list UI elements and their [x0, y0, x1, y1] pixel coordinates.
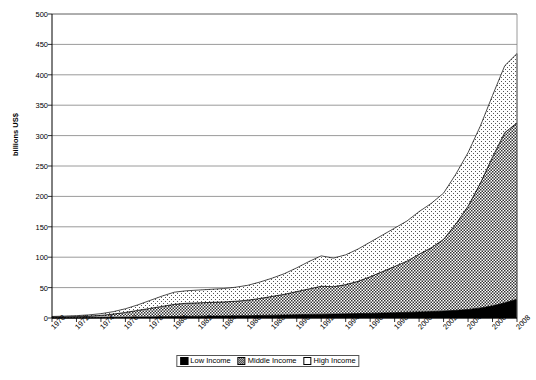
y-axis-tick-250: 250	[4, 162, 48, 171]
y-axis-tick-0: 0	[4, 314, 48, 323]
y-axis-tick-450: 450	[4, 40, 48, 49]
legend-item-low-income[interactable]: Low Income	[180, 357, 230, 365]
y-axis-tick-200: 200	[4, 192, 48, 201]
legend-label-low-income: Low Income	[190, 357, 230, 365]
y-axis-tick-50: 50	[4, 283, 48, 292]
y-axis-tick-labels: 050100150200250300350400450500	[0, 0, 48, 380]
legend-swatch-high-income	[304, 357, 312, 365]
legend-label-middle-income: Middle Income	[248, 357, 297, 365]
legend-swatch-low-income	[180, 357, 188, 365]
chart-container: billions US$ 050100150200250300350400450…	[0, 0, 536, 380]
legend-swatch-middle-income	[238, 357, 246, 365]
y-axis-tick-300: 300	[4, 131, 48, 140]
y-axis-tick-500: 500	[4, 10, 48, 19]
y-axis-tick-400: 400	[4, 70, 48, 79]
y-axis-tick-100: 100	[4, 253, 48, 262]
area-series-group	[52, 54, 517, 318]
y-axis-tick-150: 150	[4, 222, 48, 231]
legend-label-high-income: High Income	[314, 357, 356, 365]
legend-item-high-income[interactable]: High Income	[304, 357, 356, 365]
legend-item-middle-income[interactable]: Middle Income	[238, 357, 297, 365]
chart-legend: Low Income Middle Income High Income	[176, 355, 359, 367]
y-axis-tick-350: 350	[4, 101, 48, 110]
